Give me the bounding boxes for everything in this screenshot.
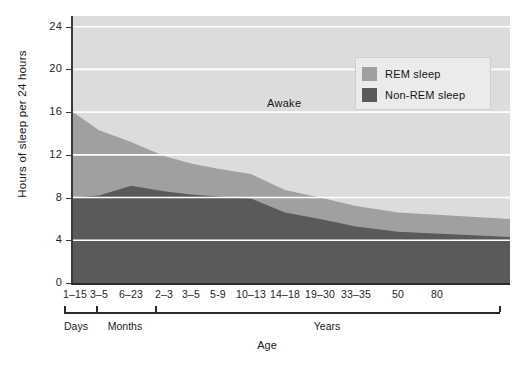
x-tick-label-10: 50	[398, 288, 410, 300]
group-label-years-text: Years	[314, 320, 340, 332]
y-tick-label-20: 20	[28, 62, 62, 74]
x-tick-label-9: 33–35	[356, 288, 386, 300]
y-tick-mark-4	[66, 240, 71, 241]
y-tick-mark-8	[66, 198, 71, 199]
x-tick-label-1: 3–5	[99, 288, 117, 300]
legend-label-non-rem-sleep: Non-REM sleep	[385, 89, 465, 101]
x-axis-line	[71, 283, 510, 285]
y-tick-label-4: 4	[28, 233, 62, 245]
y-axis-title: Hours of sleep per 24 hours	[16, 14, 28, 234]
bracket-years	[155, 312, 500, 314]
x-tick-text: 1–15	[63, 288, 87, 300]
x-tick-label-5: 5-9	[218, 288, 234, 300]
group-label-days: Days	[76, 320, 100, 332]
x-tick-text: 2–3	[155, 288, 173, 300]
y-tick-mark-16	[66, 112, 71, 113]
y-tick-mark-24	[66, 27, 71, 28]
y-tick-label-16: 16	[28, 105, 62, 117]
x-tick-text: 33–35	[341, 288, 371, 300]
legend-item-non-rem-sleep: Non-REM sleep	[362, 84, 484, 105]
y-tick-label-8: 8	[28, 191, 62, 203]
legend: REM sleep Non-REM sleep	[355, 57, 491, 110]
y-axis-line	[71, 16, 73, 284]
bracket-tick-years-end	[499, 306, 501, 312]
group-label-years: Years	[327, 320, 353, 332]
x-tick-text: 3–5	[90, 288, 108, 300]
group-label-days-text: Days	[64, 320, 88, 332]
x-tick-label-3: 2–3	[164, 288, 182, 300]
x-tick-text: 3–5	[182, 288, 200, 300]
bracket-months	[96, 312, 155, 314]
x-tick-text: 5-9	[210, 288, 226, 300]
x-tick-text: 80	[431, 288, 443, 300]
y-tick-label-12: 12	[28, 148, 62, 160]
annotation-awake: Awake	[267, 97, 301, 109]
x-tick-label-11: 80	[437, 288, 449, 300]
sleep-stages-area-chart: Awake 04812162024 Hours of sleep per 24 …	[0, 0, 526, 365]
group-label-months: Months	[125, 320, 159, 332]
x-tick-text: 6–23	[119, 288, 143, 300]
x-tick-text: 19–30	[305, 288, 335, 300]
bracket-tick-days-start	[64, 306, 66, 312]
legend-label-rem-sleep: REM sleep	[385, 68, 441, 80]
x-tick-text: 14–18	[270, 288, 300, 300]
x-axis-title: Age	[267, 339, 287, 351]
y-tick-mark-0	[66, 283, 71, 284]
x-tick-label-4: 3–5	[191, 288, 209, 300]
group-label-months-text: Months	[108, 320, 142, 332]
x-tick-text: 50	[392, 288, 404, 300]
y-tick-label-0: 0	[28, 276, 62, 288]
x-tick-text: 10–13	[236, 288, 266, 300]
y-tick-mark-12	[66, 155, 71, 156]
legend-swatch-rem-sleep	[362, 67, 377, 81]
x-axis-title-text: Age	[257, 339, 277, 351]
x-tick-label-2: 6–23	[131, 288, 155, 300]
bracket-days	[64, 312, 96, 314]
y-tick-label-24: 24	[28, 20, 62, 32]
y-tick-mark-20	[66, 69, 71, 70]
legend-item-rem-sleep: REM sleep	[362, 63, 484, 84]
legend-swatch-non-rem-sleep	[362, 88, 377, 102]
